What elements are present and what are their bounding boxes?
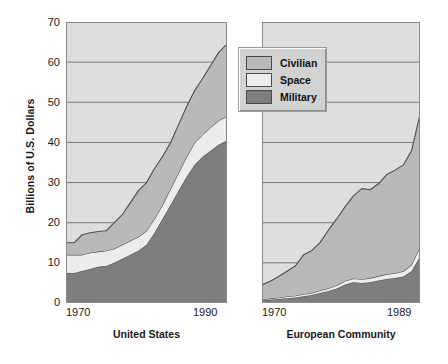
legend-swatch-civilian <box>246 56 272 70</box>
y-tick-label-60: 60 <box>16 56 60 68</box>
y-tick-label-10: 10 <box>16 256 60 268</box>
x-tick-label-us-end: 1990 <box>193 306 217 318</box>
legend-item-space: Space <box>246 71 317 88</box>
legend-label-civilian: Civilian <box>280 57 317 69</box>
chart-legend: Civilian Space Military <box>238 47 327 112</box>
y-tick-label-30: 30 <box>16 176 60 188</box>
panel-title-european-community: European Community <box>262 328 420 340</box>
y-tick-label-20: 20 <box>16 216 60 228</box>
legend-item-military: Military <box>246 88 317 105</box>
legend-swatch-military <box>246 90 272 104</box>
legend-swatch-space <box>246 73 272 87</box>
area-chart-united-states <box>66 22 227 303</box>
y-tick-label-70: 70 <box>16 16 60 28</box>
x-tick-label-us-start: 1970 <box>66 306 90 318</box>
y-tick-label-40: 40 <box>16 136 60 148</box>
plot-area-united-states <box>66 22 227 303</box>
legend-label-military: Military <box>280 91 317 103</box>
y-tick-label-50: 50 <box>16 96 60 108</box>
chart-figure: Billions of U.S. Dollars 70 60 50 40 30 … <box>0 0 448 364</box>
panel-title-united-states: United States <box>66 328 227 340</box>
x-tick-label-ec-start: 1970 <box>262 306 286 318</box>
legend-label-space: Space <box>280 74 311 86</box>
y-tick-label-0: 0 <box>16 296 60 308</box>
x-tick-label-ec-end: 1989 <box>387 306 411 318</box>
legend-item-civilian: Civilian <box>246 54 317 71</box>
